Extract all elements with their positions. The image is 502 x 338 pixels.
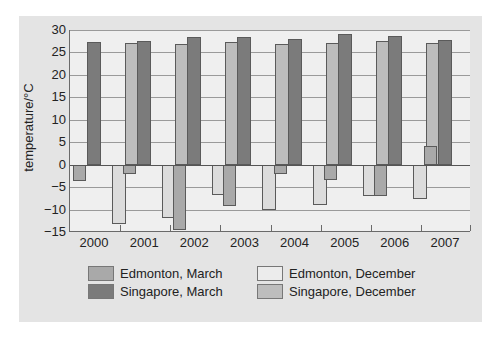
x-tick-label: 2001 — [124, 235, 164, 250]
x-tick-mark — [120, 225, 121, 231]
y-tick-label: −5 — [30, 180, 66, 193]
bar-singapore-march2001 — [137, 41, 151, 165]
bar-singapore-march2000 — [87, 42, 101, 165]
bar-edmonton-march2000 — [73, 165, 86, 182]
x-tick-label: 2002 — [174, 235, 214, 250]
x-tick-mark — [321, 225, 322, 231]
legend-label: Singapore, March — [120, 284, 223, 299]
bar-edmonton-march2005 — [324, 165, 337, 180]
legend-right: Edmonton, December Singapore, December — [257, 264, 415, 300]
zero-line — [70, 165, 470, 166]
bar-edmonton-march2007 — [424, 146, 437, 165]
y-tick-label: 15 — [30, 90, 66, 103]
legend-swatch — [88, 284, 114, 299]
bar-edmonton-march2006 — [374, 165, 387, 196]
y-tick-label: −10 — [30, 203, 66, 216]
x-tick-label: 2003 — [224, 235, 264, 250]
y-tick-label: 10 — [30, 113, 66, 126]
x-tick-label: 2004 — [275, 235, 315, 250]
x-tick-mark — [170, 225, 171, 231]
bar-singapore-march2003 — [237, 37, 251, 164]
legend-label: Singapore, December — [289, 284, 415, 299]
legend-swatch — [257, 284, 283, 299]
legend-item-singapore-december: Singapore, December — [257, 282, 415, 300]
y-tick-label: 30 — [30, 23, 66, 36]
y-tick-label: 20 — [30, 68, 66, 81]
bar-singapore-march2005 — [338, 34, 352, 164]
x-tick-mark — [271, 225, 272, 231]
bar-singapore-march2006 — [388, 36, 402, 165]
x-tick-label: 2006 — [375, 235, 415, 250]
legend-item-edmonton-march: Edmonton, March — [88, 264, 223, 282]
x-tick-mark — [470, 225, 471, 231]
x-tick-label: 2005 — [325, 235, 365, 250]
y-tick-label: −15 — [30, 225, 66, 238]
x-tick-mark — [421, 225, 422, 231]
y-tick-label: 25 — [30, 45, 66, 58]
bar-edmonton-march2004 — [274, 165, 287, 174]
x-tick-label: 2000 — [74, 235, 114, 250]
x-tick-mark — [371, 225, 372, 231]
legend-left: Edmonton, March Singapore, March — [88, 264, 223, 300]
y-tick-label: 5 — [30, 135, 66, 148]
legend-swatch — [88, 266, 114, 281]
x-tick-mark — [220, 225, 221, 231]
legend-item-singapore-march: Singapore, March — [88, 282, 223, 300]
legend-label: Edmonton, December — [289, 266, 415, 281]
y-tick-label: 0 — [30, 158, 66, 171]
bar-singapore-march2002 — [187, 37, 201, 164]
legend-item-edmonton-december: Edmonton, December — [257, 264, 415, 282]
bar-singapore-march2004 — [288, 39, 302, 164]
bar-edmonton-march2003 — [223, 165, 236, 207]
bar-singapore-march2007 — [438, 40, 452, 165]
bar-edmonton-march2002 — [173, 165, 186, 230]
plot-area — [69, 30, 470, 232]
gridline — [70, 210, 470, 211]
bar-edmonton-december2006 — [413, 165, 427, 199]
x-tick-label: 2007 — [425, 235, 465, 250]
gridline — [70, 30, 470, 31]
bar-edmonton-march2001 — [123, 165, 136, 174]
legend-label: Edmonton, March — [120, 266, 223, 281]
legend-swatch — [257, 266, 283, 281]
